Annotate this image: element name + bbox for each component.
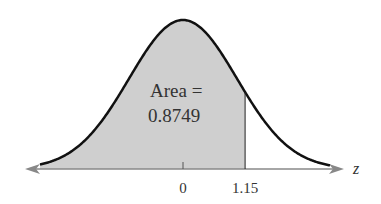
tick-label-zero: 0 <box>179 180 187 196</box>
area-label: Area = <box>150 80 202 101</box>
axis-label-z: z <box>352 160 360 177</box>
area-value: 0.8749 <box>148 105 200 126</box>
normal-distribution-chart: 0 1.15 z Area = 0.8749 <box>0 0 381 204</box>
tick-label-cutoff: 1.15 <box>232 180 258 196</box>
